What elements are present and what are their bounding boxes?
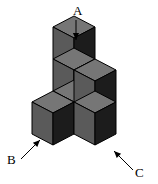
label-c-text: C [135,165,144,180]
cube-c [74,91,116,145]
cube-figure-container: ABC [0,0,158,184]
label-a-text: A [73,3,83,18]
label-b-text: B [7,152,16,167]
cube-b [32,91,74,145]
cube-figure-svg: ABC [0,0,158,184]
